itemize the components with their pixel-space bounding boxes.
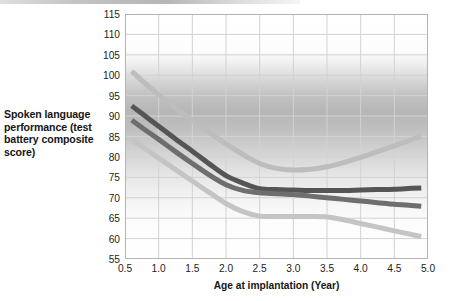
- y-tick-label: 65: [94, 213, 120, 224]
- x-tick-label: 1.0: [142, 263, 176, 274]
- y-tick-label: 95: [94, 90, 120, 101]
- x-tick-label: 4.5: [377, 263, 411, 274]
- x-tick-label: 3.0: [276, 263, 310, 274]
- y-tick-label: 90: [94, 111, 120, 122]
- y-tick-label: 110: [94, 29, 120, 40]
- series-line: [132, 106, 422, 191]
- x-tick-label: 3.5: [310, 263, 344, 274]
- y-tick-label: 115: [94, 9, 120, 20]
- x-tick-label: 2.0: [209, 263, 243, 274]
- x-axis-title: Age at implantation (Year): [125, 280, 428, 291]
- x-axis-tick-labels: 0.51.01.52.02.53.03.54.04.55.0: [125, 263, 428, 277]
- y-tick-label: 80: [94, 151, 120, 162]
- chart-figure: Spoken language performance (test batter…: [0, 0, 451, 301]
- y-tick-label: 60: [94, 233, 120, 244]
- x-tick-label: 1.5: [175, 263, 209, 274]
- data-curves: [125, 14, 428, 259]
- y-axis-tick-labels: 115110105100959085807570656055: [92, 14, 120, 259]
- x-tick-label: 2.5: [243, 263, 277, 274]
- y-tick-label: 85: [94, 131, 120, 142]
- series-line: [132, 120, 422, 206]
- y-tick-label: 75: [94, 172, 120, 183]
- y-tick-label: 105: [94, 49, 120, 60]
- x-tick-label: 5.0: [411, 263, 445, 274]
- x-tick-label: 4.0: [344, 263, 378, 274]
- y-tick-label: 70: [94, 192, 120, 203]
- x-tick-label: 0.5: [108, 263, 142, 274]
- series-line: [132, 71, 422, 170]
- plot-area: [125, 14, 428, 259]
- y-tick-label: 100: [94, 70, 120, 81]
